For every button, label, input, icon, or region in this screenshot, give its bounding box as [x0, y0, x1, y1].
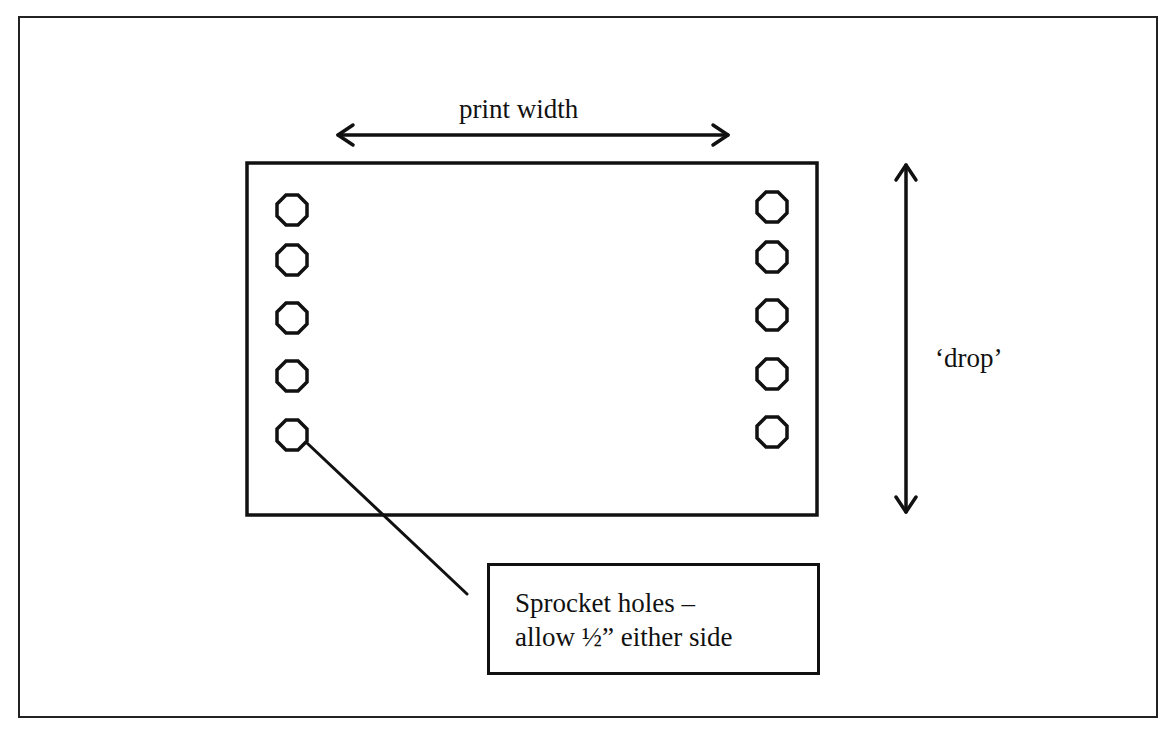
callout-line-2: allow ½” either side: [515, 620, 732, 654]
drop-label: ‘drop’: [935, 345, 1002, 372]
sprocket-holes-callout: Sprocket holes – allow ½” either side: [487, 563, 820, 675]
print-width-arrow: [338, 125, 728, 145]
drop-arrow: [896, 165, 916, 512]
callout-text: Sprocket holes – allow ½” either side: [515, 586, 732, 654]
print-width-label: print width: [459, 96, 578, 123]
callout-line-1: Sprocket holes –: [515, 586, 732, 620]
diagram-canvas: print width ‘drop’ Sprocket holes – allo…: [0, 0, 1167, 733]
paper-sheet: [247, 163, 817, 515]
